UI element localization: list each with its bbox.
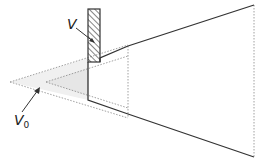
hatched-wall-volume	[88, 9, 100, 62]
v0-label-group: V0	[14, 87, 40, 130]
v0-label: V0	[14, 112, 30, 130]
nozzle-diagram: V V0	[0, 0, 270, 164]
nozzle-outline	[88, 5, 254, 157]
v-label: V	[67, 16, 78, 32]
